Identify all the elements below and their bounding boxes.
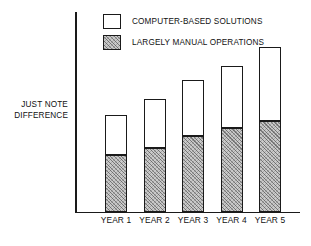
legend-swatch-manual-operations bbox=[103, 35, 121, 50]
chart-legend: COMPUTER-BASED SOLUTIONS LARGELY MANUAL … bbox=[103, 12, 264, 54]
bar-2-segment-manual-operations bbox=[144, 148, 166, 212]
y-axis-annotation-line-2: DIFFERENCE bbox=[0, 111, 68, 122]
bar-4-segment-manual-operations bbox=[221, 128, 243, 212]
bar-1 bbox=[105, 115, 127, 212]
legend-label-computer-based: COMPUTER-BASED SOLUTIONS bbox=[132, 17, 263, 26]
bar-5 bbox=[259, 47, 281, 212]
legend-item-computer-based: COMPUTER-BASED SOLUTIONS bbox=[103, 12, 264, 31]
bar-2 bbox=[144, 99, 166, 212]
bar-2-segment-computer-based bbox=[144, 99, 166, 148]
bar-3-segment-manual-operations bbox=[182, 136, 204, 212]
bar-1-segment-computer-based bbox=[105, 115, 127, 155]
legend-label-manual-operations: LARGELY MANUAL OPERATIONS bbox=[132, 38, 264, 47]
bar-4-segment-computer-based bbox=[221, 66, 243, 128]
y-axis-annotation-line-1: JUST NOTE bbox=[0, 100, 68, 111]
legend-swatch-computer-based bbox=[103, 14, 121, 29]
bar-3-segment-computer-based bbox=[182, 80, 204, 136]
legend-item-manual-operations: LARGELY MANUAL OPERATIONS bbox=[103, 33, 264, 52]
bar-3 bbox=[182, 80, 204, 212]
bar-5-segment-manual-operations bbox=[259, 121, 281, 212]
y-axis-annotation: JUST NOTE DIFFERENCE bbox=[0, 100, 68, 121]
bar-4 bbox=[221, 66, 243, 212]
bar-5-segment-computer-based bbox=[259, 47, 281, 121]
bar-1-segment-manual-operations bbox=[105, 155, 127, 212]
stacked-bar-chart: JUST NOTE DIFFERENCE COMPUTER-BASED SOLU… bbox=[0, 0, 311, 246]
x-axis-label-5: YEAR 5 bbox=[240, 215, 300, 225]
